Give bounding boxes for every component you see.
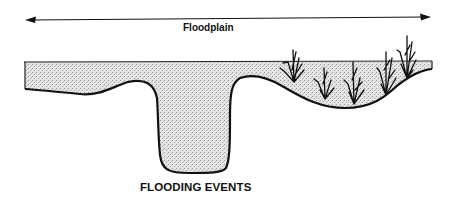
arrow-head-right-icon [420,14,431,21]
water-surface [24,61,432,62]
floodplain-label: Floodplain [183,22,234,33]
diagram-caption: FLOODING EVENTS [140,181,251,193]
arrow-shaft [30,17,426,20]
arrow-head-left-icon [25,17,36,24]
